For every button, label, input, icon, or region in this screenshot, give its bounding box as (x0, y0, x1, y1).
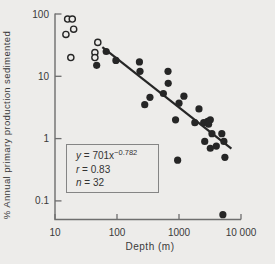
data-point-open (95, 39, 101, 45)
data-point-filled (160, 90, 167, 97)
y-tick-label: 0.1 (35, 195, 49, 206)
data-point-filled (93, 62, 100, 69)
data-point-open (71, 26, 77, 32)
data-point-open (69, 16, 75, 22)
equation-line-fit: y = 701x−0.782 (76, 149, 158, 163)
data-point-filled (205, 121, 212, 128)
data-point-filled (201, 138, 208, 145)
data-point-filled (146, 94, 153, 101)
data-point-filled (112, 57, 119, 64)
x-tick-label: 100 (109, 227, 126, 238)
scatter-plot-canvas: 1001010.110100100010 000 (0, 0, 275, 264)
data-point-filled (220, 138, 227, 145)
data-point-filled (164, 68, 171, 75)
data-point-filled (141, 101, 148, 108)
data-point-filled (218, 130, 225, 137)
x-tick-label: 10 000 (226, 227, 257, 238)
equation-box: y = 701x−0.782 r = 0.83 n = 32 (66, 144, 159, 193)
x-tick-label: 10 (49, 227, 61, 238)
y-tick-label: 100 (32, 9, 49, 20)
data-point-filled (136, 58, 143, 65)
data-point-open (68, 54, 74, 60)
x-axis-title: Depth (m) (95, 241, 205, 252)
data-point-filled (180, 93, 187, 100)
data-point-filled (221, 154, 228, 161)
y-tick-label: 1 (43, 133, 49, 144)
data-point-open (63, 31, 69, 37)
x-tick-label: 1000 (168, 227, 191, 238)
data-point-filled (208, 130, 215, 137)
y-tick-label: 10 (38, 71, 50, 82)
equation-line-r: r = 0.83 (76, 163, 158, 177)
y-axis-title: % Annual primary production sedimented (1, 7, 15, 243)
data-point-open (92, 54, 98, 60)
data-point-filled (219, 211, 226, 218)
data-point-filled (175, 100, 182, 107)
data-point-filled (195, 105, 202, 112)
scatter-figure: 1001010.110100100010 000 % Annual primar… (0, 0, 275, 264)
data-point-filled (165, 80, 172, 87)
data-point-filled (136, 68, 143, 75)
data-point-filled (103, 48, 110, 55)
data-point-filled (207, 145, 214, 152)
data-point-filled (191, 119, 198, 126)
data-point-filled (174, 157, 181, 164)
data-point-filled (172, 116, 179, 123)
equation-line-n: n = 32 (76, 176, 158, 190)
